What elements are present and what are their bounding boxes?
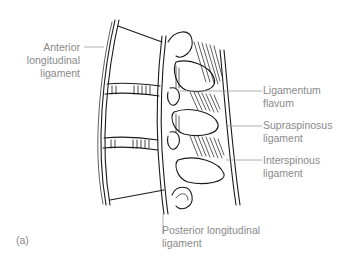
label-supraspinosus-ligament: Supraspinosus ligament — [263, 119, 332, 145]
label-line: longitudinal — [22, 54, 80, 67]
label-line: ligament — [263, 132, 332, 145]
label-ligamentum-flavum: Ligamentum flavum — [263, 84, 321, 110]
label-line: Ligamentum — [263, 84, 321, 97]
label-line: flavum — [263, 97, 321, 110]
label-line: Interspinous — [263, 154, 320, 167]
label-line: ligament — [22, 67, 80, 80]
label-line: ligament — [263, 167, 320, 180]
label-line: ligament — [162, 237, 260, 250]
label-interspinous-ligament: Interspinous ligament — [263, 154, 320, 180]
label-posterior-longitudinal-ligament: Posterior longitudinal ligament — [162, 224, 260, 250]
panel-label: (a) — [16, 234, 29, 247]
label-anterior-longitudinal-ligament: Anterior longitudinal ligament — [22, 41, 80, 80]
label-line: Posterior longitudinal — [162, 224, 260, 237]
label-line: Supraspinosus — [263, 119, 332, 132]
label-line: Anterior — [22, 41, 80, 54]
